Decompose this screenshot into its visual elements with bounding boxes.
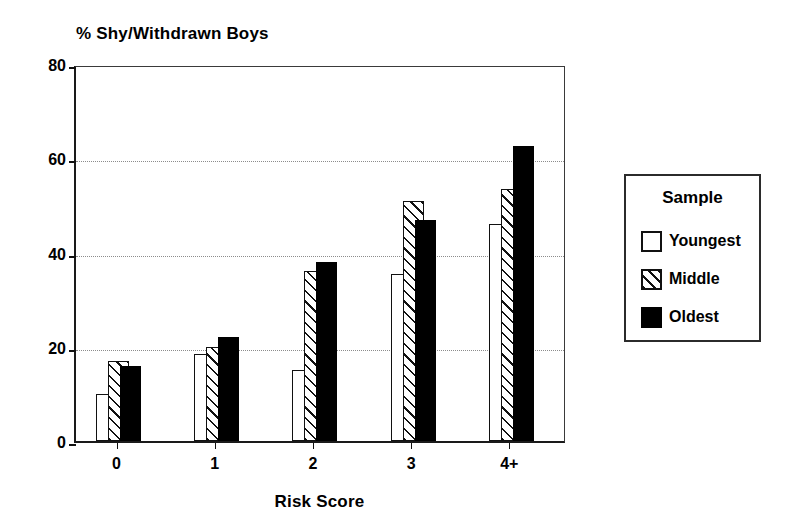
plot-inner [76, 67, 564, 441]
y-tick-mark [69, 350, 76, 352]
legend-item-oldest[interactable]: Oldest [641, 298, 753, 336]
x-axis-ticks: 01234+ [74, 443, 565, 483]
y-tick-label: 60 [48, 151, 66, 169]
legend-item-youngest[interactable]: Youngest [641, 222, 753, 260]
legend-item-label: Oldest [669, 308, 719, 326]
x-tick-label-2: 2 [308, 455, 317, 473]
x-tick-label-1: 1 [210, 455, 219, 473]
y-axis-labels: 020406080 [26, 66, 66, 443]
x-tick-mark [215, 443, 216, 449]
chart-title: % Shy/Withdrawn Boys [76, 24, 269, 44]
legend-item-label: Middle [669, 270, 720, 288]
bar-oldest-4plus [513, 146, 534, 441]
chart-page: % Shy/Withdrawn Boys 020406080 01234+ Ri… [0, 0, 806, 532]
y-tick-label: 40 [48, 246, 66, 264]
legend: Sample YoungestMiddleOldest [624, 174, 761, 342]
y-tick-label: 0 [57, 434, 66, 452]
plot-area [74, 66, 565, 443]
legend-title: Sample [626, 188, 759, 208]
black-square-icon [641, 307, 662, 328]
bar-oldest-1 [218, 337, 239, 441]
x-tick-mark [411, 443, 412, 449]
x-tick-label-3: 3 [407, 455, 416, 473]
x-tick-mark [313, 443, 314, 449]
x-tick-label-4plus: 4+ [500, 455, 518, 473]
legend-item-middle[interactable]: Middle [641, 260, 753, 298]
bar-oldest-0 [120, 366, 141, 441]
y-tick-mark [69, 67, 76, 69]
x-tick-mark [509, 443, 510, 449]
white-square-icon [641, 231, 662, 252]
y-tick-label: 80 [48, 57, 66, 75]
y-tick-mark [69, 256, 76, 258]
legend-item-label: Youngest [669, 232, 741, 250]
x-axis-title: Risk Score [74, 492, 565, 512]
x-tick-label-0: 0 [112, 455, 121, 473]
hatched-square-icon [641, 269, 662, 290]
bar-oldest-3 [415, 220, 436, 441]
y-tick-mark [69, 161, 76, 163]
gridline [76, 161, 564, 162]
bar-oldest-2 [316, 262, 337, 441]
x-tick-mark [117, 443, 118, 449]
legend-items: YoungestMiddleOldest [641, 222, 753, 336]
y-tick-label: 20 [48, 340, 66, 358]
